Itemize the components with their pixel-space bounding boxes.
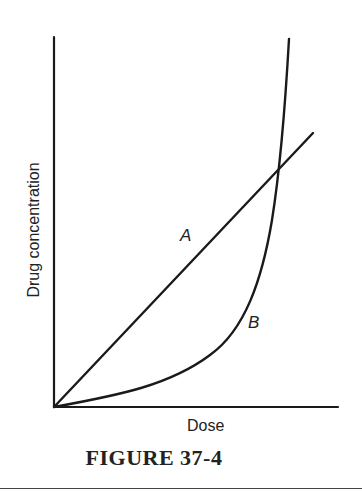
- curve-b-label: B: [248, 313, 259, 333]
- chart-canvas: [0, 0, 362, 492]
- divider: [0, 488, 362, 489]
- figure-caption: FIGURE 37-4: [0, 445, 308, 471]
- curve-a-label: A: [180, 226, 191, 246]
- curve-b-line: [54, 39, 289, 407]
- curve-a-line: [54, 133, 313, 407]
- y-axis-label-text: Drug concentration: [25, 162, 43, 297]
- x-axis-label: Dose: [187, 417, 224, 435]
